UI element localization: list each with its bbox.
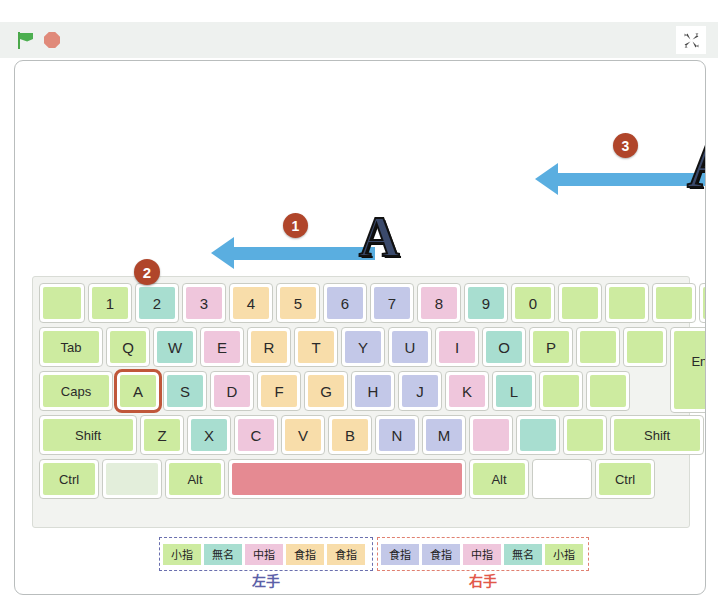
key-2[interactable]: 2 [135,283,179,323]
finger-cell-right-hand-0: 食指 [381,544,419,565]
key-j[interactable]: J [398,371,442,411]
key-blank[interactable] [558,283,602,323]
key-cap [656,287,692,319]
key-s[interactable]: S [163,371,207,411]
key-label: X [204,427,214,444]
key-label: B [345,427,355,444]
key-x[interactable]: X [187,415,231,455]
key-f[interactable]: F [257,371,301,411]
key-label: U [405,339,416,356]
key-b[interactable]: B [328,415,372,455]
key-4[interactable]: 4 [229,283,273,323]
key-blank[interactable] [652,283,696,323]
key-blank[interactable] [39,283,85,323]
key-t[interactable]: T [294,327,338,367]
key-enter[interactable]: Enter [670,327,706,413]
key-cap [473,419,509,451]
key-3[interactable]: 3 [182,283,226,323]
key-k[interactable]: K [445,371,489,411]
key-blank[interactable] [516,415,560,455]
key-m[interactable]: M [422,415,466,455]
key-label: 8 [435,295,443,312]
key-9[interactable]: 9 [464,283,508,323]
key-cap [43,287,81,319]
key-label: K [462,383,472,400]
key-ctrl[interactable]: Ctrl [595,459,655,499]
key-blank[interactable] [563,415,607,455]
key-n[interactable]: N [375,415,419,455]
key-o[interactable]: O [482,327,526,367]
key-g[interactable]: G [304,371,348,411]
right-hand-label: 右手 [378,570,588,590]
key-cap [609,287,645,319]
key-label: V [298,427,308,444]
key-blank[interactable] [228,459,466,499]
stop-sign-icon[interactable] [44,32,60,48]
green-flag-icon[interactable] [18,32,35,49]
key-label: H [368,383,379,400]
key-7[interactable]: 7 [370,283,414,323]
key-6[interactable]: 6 [323,283,367,323]
exit-fullscreen-button[interactable] [676,26,706,54]
key-alt[interactable]: Alt [469,459,529,499]
key-label: Alt [491,472,506,487]
key-ctrl[interactable]: Ctrl [39,459,99,499]
key-alt[interactable]: Alt [165,459,225,499]
key-q[interactable]: Q [106,327,150,367]
key-blank[interactable] [699,283,706,323]
key-r[interactable]: R [247,327,291,367]
key-1[interactable]: 1 [88,283,132,323]
scratch-stage[interactable]: A 3 A 1 2 1234567890TabQWERTYUIOPEnterCa… [14,60,706,595]
key-label: 3 [200,295,208,312]
key-cap [674,331,706,409]
finger-cell-right-hand-3: 無名 [504,544,542,565]
letter-a-sprite-2[interactable]: A [687,127,706,199]
key-z[interactable]: Z [140,415,184,455]
key-label: E [217,339,227,356]
key-label: Ctrl [615,472,635,487]
key-label: A [133,383,143,400]
toolbar-left-controls [18,32,60,49]
key-a[interactable]: A [116,371,160,411]
key-5[interactable]: 5 [276,283,320,323]
key-label: 9 [482,295,490,312]
key-blank[interactable] [576,327,620,367]
key-y[interactable]: Y [341,327,385,367]
key-0[interactable]: 0 [511,283,555,323]
key-v[interactable]: V [281,415,325,455]
key-blank[interactable] [605,283,649,323]
key-i[interactable]: I [435,327,479,367]
key-blank[interactable] [623,327,667,367]
key-blank[interactable] [102,459,162,499]
finger-cell-left-hand-2: 中指 [245,544,283,565]
left-hand-label: 左手 [160,570,372,590]
key-8[interactable]: 8 [417,283,461,323]
key-shift[interactable]: Shift [610,415,704,455]
key-blank[interactable] [586,371,630,411]
key-caps[interactable]: Caps [39,371,113,411]
step-badge-1: 1 [283,213,308,238]
key-label: Ctrl [59,472,79,487]
key-e[interactable]: E [200,327,244,367]
on-screen-keyboard[interactable]: 2 1234567890TabQWERTYUIOPEnterCapsASDFGH… [32,276,690,528]
key-label: 6 [341,295,349,312]
key-blank[interactable] [532,459,592,499]
key-tab[interactable]: Tab [39,327,103,367]
key-c[interactable]: C [234,415,278,455]
key-label: 0 [529,295,537,312]
key-p[interactable]: P [529,327,573,367]
key-label: I [455,339,459,356]
key-blank[interactable] [469,415,513,455]
key-shift[interactable]: Shift [39,415,137,455]
key-h[interactable]: H [351,371,395,411]
key-label: W [168,339,182,356]
key-d[interactable]: D [210,371,254,411]
key-u[interactable]: U [388,327,432,367]
exit-fullscreen-icon [683,32,700,49]
key-blank[interactable] [539,371,583,411]
letter-a-sprite-1[interactable]: A [359,209,399,265]
key-l[interactable]: L [492,371,536,411]
key-label: L [510,383,518,400]
key-cap [567,419,603,451]
key-w[interactable]: W [153,327,197,367]
